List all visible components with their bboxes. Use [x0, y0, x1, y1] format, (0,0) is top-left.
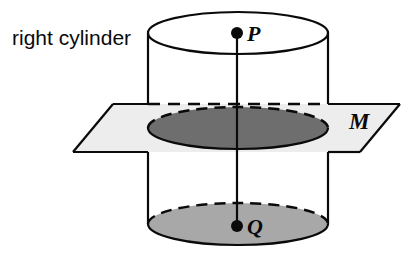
point-p-dot: [231, 27, 243, 39]
geometry-figure: P Q M right cylinder: [0, 0, 416, 263]
figure-caption: right cylinder: [12, 26, 131, 49]
point-p-label: P: [246, 21, 261, 46]
point-q-dot: [231, 220, 243, 232]
right-cylinder-diagram: P Q M right cylinder: [0, 0, 416, 263]
plane-m-label: M: [348, 109, 371, 134]
point-q-label: Q: [247, 214, 263, 239]
